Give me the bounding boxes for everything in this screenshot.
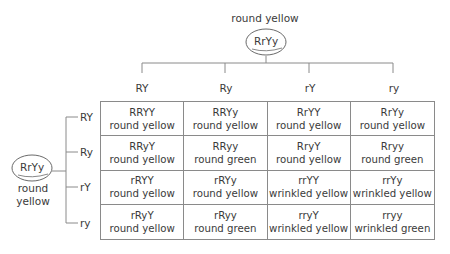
cell-phenotype: round yellow bbox=[276, 153, 341, 166]
row-gamete-2: Ry bbox=[80, 146, 93, 158]
column-gamete-1: RY bbox=[100, 82, 184, 94]
cell-genotype: rRyY bbox=[131, 209, 154, 222]
column-gamete-3: rY bbox=[268, 82, 352, 94]
row-gamete-3: rY bbox=[80, 181, 91, 193]
row-gamete-1: RY bbox=[80, 111, 93, 123]
cell-genotype: rryY bbox=[298, 209, 318, 222]
cell-phenotype: round yellow bbox=[109, 153, 174, 166]
cell-genotype: RrYy bbox=[381, 106, 405, 119]
left-parent-phenotype: round yellow bbox=[2, 182, 64, 208]
cell-r4c2: rRyyround green bbox=[184, 205, 267, 239]
column-gamete-4: ry bbox=[352, 82, 436, 94]
left-parent-genotype: RrYy bbox=[12, 160, 52, 174]
cell-genotype: rRYy bbox=[214, 174, 237, 187]
cell-genotype: RrYY bbox=[297, 106, 321, 119]
cell-r1c4: RrYyround yellow bbox=[351, 102, 434, 136]
cell-r2c2: RRyyround green bbox=[184, 136, 267, 170]
top-parent-genotype: RrYy bbox=[246, 34, 286, 48]
cell-genotype: rRYY bbox=[131, 174, 154, 187]
left-parent-phenotype-line1: round bbox=[2, 182, 64, 195]
cell-phenotype: round yellow bbox=[193, 119, 258, 132]
cell-phenotype: wrinkled yellow bbox=[269, 222, 348, 235]
cell-genotype: RRyy bbox=[213, 140, 239, 153]
cell-r2c3: RryYround yellow bbox=[268, 136, 351, 170]
cell-r3c1: rRYYround yellow bbox=[101, 171, 184, 205]
cell-phenotype: wrinkled green bbox=[354, 222, 430, 235]
punnett-square: RRYYround yellow RRYyround yellow RrYYro… bbox=[100, 101, 435, 240]
cell-r1c2: RRYyround yellow bbox=[184, 102, 267, 136]
column-gamete-2: Ry bbox=[184, 82, 268, 94]
cell-phenotype: round yellow bbox=[276, 119, 341, 132]
cell-genotype: RryY bbox=[297, 140, 321, 153]
cell-phenotype: round yellow bbox=[109, 119, 174, 132]
cell-r4c4: rryywrinkled green bbox=[351, 205, 434, 239]
cell-genotype: rryy bbox=[382, 209, 402, 222]
row-gamete-4: ry bbox=[80, 217, 91, 229]
cell-phenotype: round yellow bbox=[193, 187, 258, 200]
cell-r4c1: rRyYround yellow bbox=[101, 205, 184, 239]
cell-r1c1: RRYYround yellow bbox=[101, 102, 184, 136]
cell-phenotype: round green bbox=[194, 222, 256, 235]
cell-genotype: rrYY bbox=[298, 174, 319, 187]
cell-r2c4: Rryyround green bbox=[351, 136, 434, 170]
cell-r1c3: RrYYround yellow bbox=[268, 102, 351, 136]
top-parent-phenotype: round yellow bbox=[205, 12, 325, 24]
left-parent-phenotype-line2: yellow bbox=[2, 195, 64, 208]
cell-genotype: RRYy bbox=[212, 106, 238, 119]
cell-phenotype: round yellow bbox=[109, 187, 174, 200]
cell-genotype: RRYY bbox=[129, 106, 155, 119]
cell-r4c3: rryYwrinkled yellow bbox=[268, 205, 351, 239]
cell-phenotype: wrinkled yellow bbox=[269, 187, 348, 200]
cell-r3c3: rrYYwrinkled yellow bbox=[268, 171, 351, 205]
cell-r3c2: rRYyround yellow bbox=[184, 171, 267, 205]
cell-genotype: RRyY bbox=[129, 140, 155, 153]
cell-phenotype: wrinkled yellow bbox=[353, 187, 432, 200]
cell-r3c4: rrYywrinkled yellow bbox=[351, 171, 434, 205]
cell-phenotype: round yellow bbox=[360, 119, 425, 132]
cell-r2c1: RRyYround yellow bbox=[101, 136, 184, 170]
cell-phenotype: round green bbox=[194, 153, 256, 166]
cell-phenotype: round green bbox=[361, 153, 423, 166]
cell-genotype: rRyy bbox=[214, 209, 237, 222]
cell-phenotype: round yellow bbox=[109, 222, 174, 235]
cell-genotype: Rryy bbox=[381, 140, 404, 153]
cell-genotype: rrYy bbox=[382, 174, 402, 187]
